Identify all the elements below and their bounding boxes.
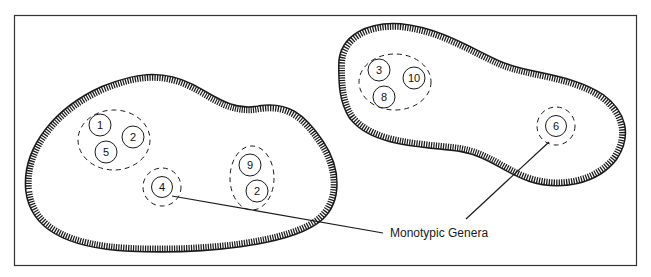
svg-text:1: 1 bbox=[97, 119, 103, 131]
diagram-canvas: 1 2 5 4 9 2 3 10 8 6 bbox=[0, 0, 651, 277]
monotypic-genera-label: Monotypic Genera bbox=[390, 226, 488, 240]
svg-text:2: 2 bbox=[130, 131, 136, 143]
svg-text:3: 3 bbox=[376, 64, 382, 76]
svg-text:9: 9 bbox=[247, 159, 253, 171]
svg-text:2: 2 bbox=[254, 185, 260, 197]
svg-text:4: 4 bbox=[159, 181, 165, 193]
svg-text:6: 6 bbox=[553, 120, 559, 132]
left-island bbox=[32, 81, 331, 246]
svg-text:5: 5 bbox=[103, 146, 109, 158]
svg-text:10: 10 bbox=[408, 72, 420, 84]
svg-text:8: 8 bbox=[381, 91, 387, 103]
